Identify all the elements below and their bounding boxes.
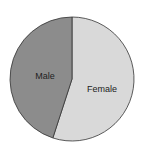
pie-chart: Female Male [0,0,143,153]
slice-label-male: Male [35,71,55,81]
slice-label-female: Female [87,84,117,94]
